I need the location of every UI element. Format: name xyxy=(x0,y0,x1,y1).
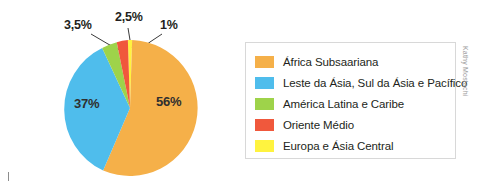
legend-label: América Latina e Caribe xyxy=(283,98,404,110)
legend-swatch-icon xyxy=(255,56,274,68)
slice-label-oriente-medio: 2,5% xyxy=(115,10,143,24)
legend-item-europa-asia-central: Europa e Ásia Central xyxy=(255,135,455,156)
pie-chart-figure: 3,5% 2,5% 1% 37% 56% África Subsaariana … xyxy=(0,0,485,188)
slice-label-africa-subsaariana: 56% xyxy=(156,94,181,109)
chart-legend: África Subsaariana Leste da Ásia, Sul da… xyxy=(245,42,456,159)
credit-label: Kathy Mostachi xyxy=(462,46,469,97)
legend-item-oriente-medio: Oriente Médio xyxy=(255,114,455,135)
legend-label: África Subsaariana xyxy=(283,56,378,68)
legend-label: Oriente Médio xyxy=(283,119,354,131)
slice-label-america-latina-caribe: 3,5% xyxy=(64,18,92,32)
corner-tick-mark xyxy=(8,172,9,181)
slice-label-europa-asia-central: 1% xyxy=(160,18,178,32)
legend-item-africa-subsaariana: África Subsaariana xyxy=(255,51,455,72)
pie-svg xyxy=(20,8,230,180)
legend-swatch-icon xyxy=(255,119,274,131)
legend-item-america-latina-caribe: América Latina e Caribe xyxy=(255,93,455,114)
legend-label: Leste da Ásia, Sul da Ásia e Pacífico xyxy=(283,77,467,89)
legend-item-leste-asia-pacifico: Leste da Ásia, Sul da Ásia e Pacífico xyxy=(255,72,455,93)
legend-swatch-icon xyxy=(255,98,274,110)
pie-plot-area: 3,5% 2,5% 1% 37% 56% xyxy=(20,8,230,180)
slice-label-leste-asia-pacifico: 37% xyxy=(74,96,99,111)
legend-swatch-icon xyxy=(255,77,274,89)
legend-label: Europa e Ásia Central xyxy=(283,140,393,152)
legend-swatch-icon xyxy=(255,140,274,152)
credit-text: Kathy Mostachi xyxy=(458,46,472,146)
